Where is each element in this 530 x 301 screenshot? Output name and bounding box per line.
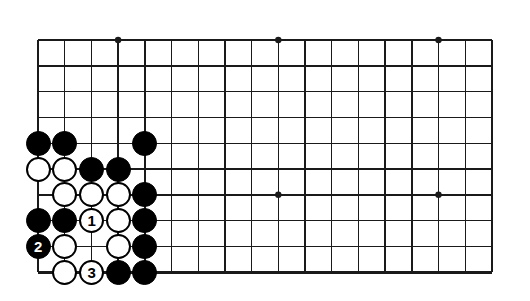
star-point — [435, 37, 441, 43]
stone-black — [106, 157, 131, 182]
stone-black — [132, 260, 157, 285]
move-number-label: 2 — [34, 238, 42, 253]
stone-black — [52, 131, 77, 156]
star-point — [275, 192, 281, 198]
stone-white — [26, 157, 51, 182]
go-board-grid — [0, 0, 530, 301]
stone-black — [79, 157, 104, 182]
stone-white — [106, 234, 131, 259]
star-point — [115, 37, 121, 43]
move-number-label: 3 — [87, 264, 95, 279]
star-point — [275, 37, 281, 43]
stone-white-move-3: 3 — [79, 260, 104, 285]
stone-white — [52, 260, 77, 285]
stone-black — [26, 208, 51, 233]
stone-white-move-1: 1 — [79, 208, 104, 233]
go-diagram: 123 — [0, 0, 530, 301]
stone-white — [106, 182, 131, 207]
stone-white — [52, 234, 77, 259]
stone-black-move-2: 2 — [26, 234, 51, 259]
stone-black — [26, 131, 51, 156]
stone-black — [132, 131, 157, 156]
star-point — [435, 192, 441, 198]
stone-white — [52, 157, 77, 182]
move-number-label: 1 — [87, 213, 95, 228]
stone-black — [106, 260, 131, 285]
stone-white — [106, 208, 131, 233]
